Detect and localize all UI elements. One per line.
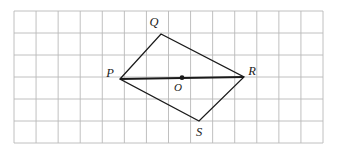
vertex-label-p: P bbox=[105, 66, 114, 80]
figure-canvas: P Q R S O bbox=[0, 0, 337, 152]
center-point-o-dot bbox=[180, 75, 185, 80]
vertex-label-q: Q bbox=[149, 15, 158, 29]
vertex-label-s: S bbox=[196, 125, 203, 139]
vertex-label-r: R bbox=[247, 64, 256, 78]
center-label-o: O bbox=[174, 81, 182, 93]
geometry-figure: P Q R S O bbox=[0, 0, 337, 152]
